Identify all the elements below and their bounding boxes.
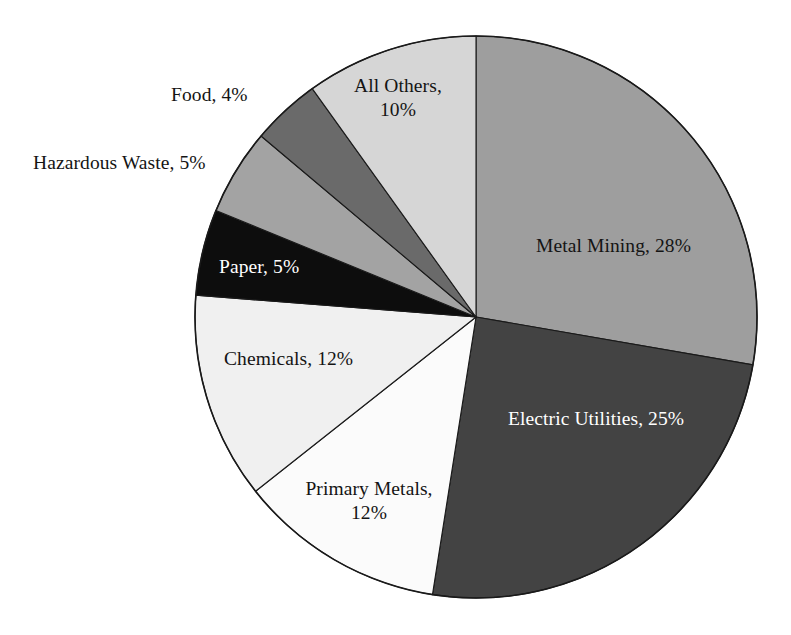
slice-label-primary-metals-line2: 12% [351,502,387,523]
slice-label-all-others: All Others, 10% [330,74,466,122]
slice-label-all-others-line2: 10% [380,99,416,120]
slice-label-chemicals: Chemicals, 12% [224,347,353,371]
slice-label-primary-metals-line1: Primary Metals, [305,478,432,499]
slice-label-food: Food, 4% [171,83,248,107]
pie-slice-electric-utilities[interactable] [432,317,752,598]
slice-label-electric-utilities: Electric Utilities, 25% [508,407,684,431]
slice-label-metal-mining: Metal Mining, 28% [536,234,691,258]
slice-label-hazardous-waste: Hazardous Waste, 5% [33,151,206,175]
pie-slice-metal-mining[interactable] [476,36,757,365]
slice-label-paper: Paper, 5% [219,255,299,279]
pie-chart: Metal Mining, 28% Electric Utilities, 25… [0,0,791,635]
slice-label-primary-metals: Primary Metals, 12% [290,477,448,525]
slice-label-all-others-line1: All Others, [354,75,442,96]
